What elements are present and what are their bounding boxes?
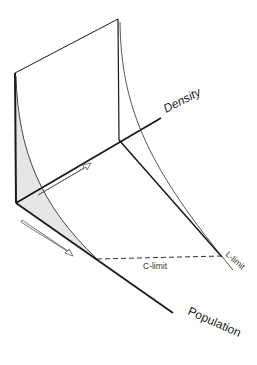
density-axis-label: Density — [161, 85, 204, 116]
l-limit-label: L-limit — [224, 249, 248, 272]
diagram-canvas: Density Population C-limit L-limit — [0, 0, 257, 365]
population-axis-label: Population — [186, 304, 244, 340]
density-direction-arrow — [38, 163, 91, 195]
l-limit-line — [119, 140, 222, 257]
density-axis — [16, 118, 161, 203]
back-plane-top-edge — [15, 19, 118, 73]
c-limit-label: C-limit — [143, 261, 168, 271]
back-curve — [120, 22, 233, 270]
c-limit-line — [97, 256, 222, 259]
vertical-axis — [15, 73, 16, 203]
back-vertical-edge — [118, 19, 119, 140]
